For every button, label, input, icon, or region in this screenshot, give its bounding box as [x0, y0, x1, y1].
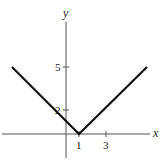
x-axis-label: x [152, 126, 159, 140]
y-axis-label: y [62, 6, 69, 20]
x-tick-label-1: 1 [76, 139, 82, 151]
absolute-value-graph: 5 2 1 3 y x [0, 0, 164, 162]
x-tick-label-3: 3 [103, 139, 109, 151]
y-tick-label-5: 5 [55, 61, 61, 73]
function-curve [12, 67, 147, 134]
